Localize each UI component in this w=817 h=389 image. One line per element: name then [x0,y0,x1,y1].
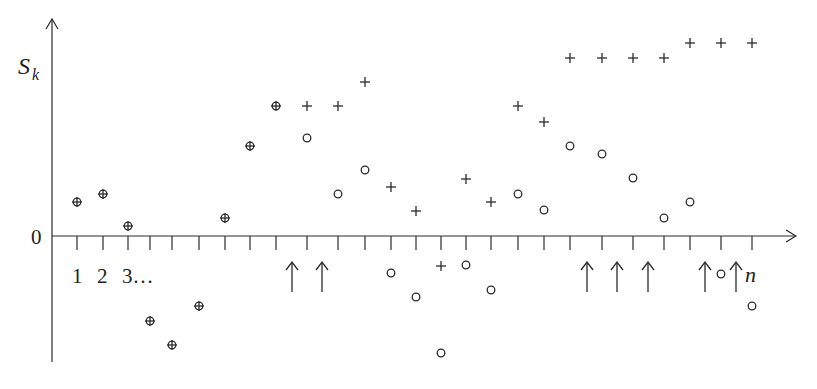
circle-point [686,198,694,206]
x-tick-label-2: 2 [97,264,108,288]
circle-point [387,269,395,277]
plus-point [436,261,446,271]
circle-point [566,142,574,150]
up-arrow-icon [316,262,328,292]
circle-point [437,349,445,357]
circle-point [629,174,637,182]
up-arrow-icon [642,262,654,292]
plus-point [716,38,726,48]
plus-point [302,101,312,111]
plus-point [685,38,695,48]
plus-point [597,53,607,63]
circle-point [303,134,311,142]
plus-point [513,101,523,111]
circle-point [334,190,342,198]
plus-point [461,174,471,184]
up-arrow-icon [730,262,742,292]
up-arrow-icon [699,262,711,292]
plus-point [628,53,638,63]
circle-point [717,270,725,278]
plus-point [539,117,549,127]
circle-point [598,150,606,158]
circle-point [412,293,420,301]
up-arrow-icon [286,262,298,292]
circle-point [540,206,548,214]
circle-point [487,286,495,294]
plus-point [386,182,396,192]
y-axis-label: S [18,53,30,79]
x-axis-ticks [77,236,752,250]
up-arrow-icon [581,262,593,292]
plus-point [333,101,343,111]
plus-point [360,77,370,87]
x-end-label-n: n [745,262,756,287]
diagram-canvas: S k 0 1 2 3… n [0,0,817,389]
circle-point [748,302,756,310]
data-points [72,38,757,357]
up-arrow-icon [611,262,623,292]
plus-point [411,206,421,216]
circle-point [660,214,668,222]
origin-label: 0 [31,225,42,249]
plus-point [659,53,669,63]
x-tick-label-1: 1 [72,264,83,288]
plus-point [747,38,757,48]
marker-arrows [286,262,742,292]
circle-point [462,261,470,269]
circle-point [361,166,369,174]
y-axis [46,19,58,362]
circle-point [514,190,522,198]
plus-point [486,197,496,207]
x-tick-label-3: 3… [122,264,154,288]
y-axis-label-subscript: k [32,66,40,83]
plus-point [565,53,575,63]
x-axis [52,230,796,242]
